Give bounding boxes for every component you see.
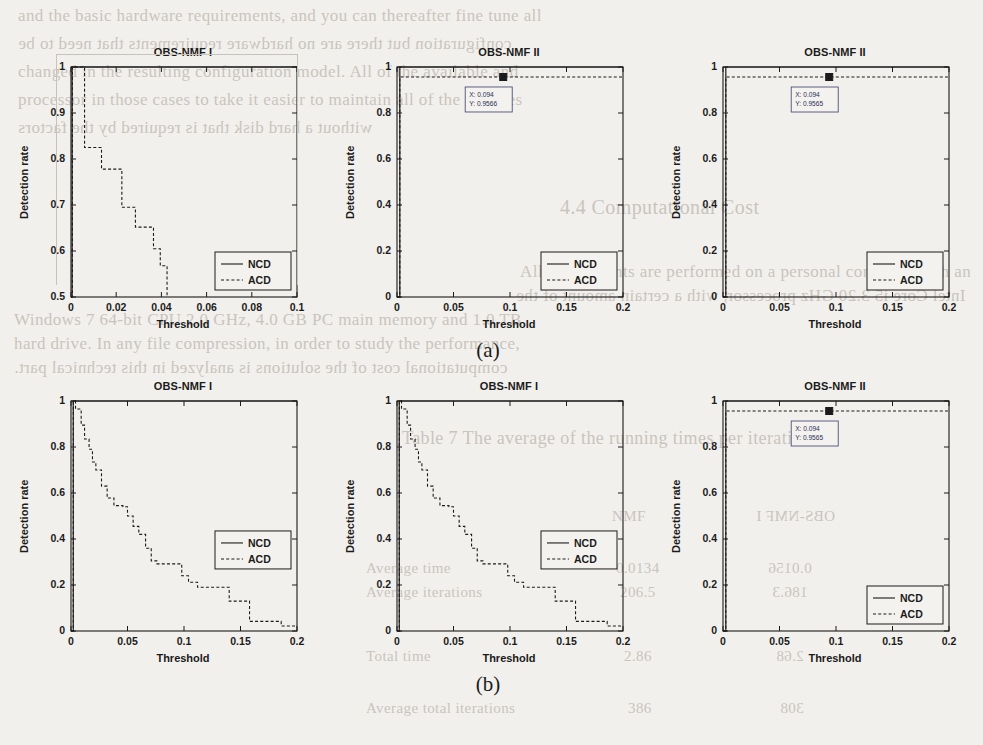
- y-tick-label: 0.2: [357, 578, 391, 590]
- y-axis-label: Detection rate: [344, 146, 356, 219]
- y-tick-label: 0.2: [357, 244, 391, 256]
- y-tick-label: 1: [31, 394, 65, 406]
- x-tick-label: 0.08: [229, 301, 275, 313]
- y-tick-label: 1: [357, 60, 391, 72]
- x-tick-label: 0.1: [274, 301, 320, 313]
- x-tick-label: 0.2: [600, 635, 646, 647]
- legend-label-acd: ACD: [574, 274, 597, 286]
- chart-panel: OBS-NMF IIX: 0.094Y: 0.9565NCDACD00.050.…: [676, 46, 960, 342]
- x-tick-label: 0.15: [544, 301, 590, 313]
- y-tick-label: 0.2: [683, 244, 717, 256]
- scan-ghost-frame: [56, 54, 298, 285]
- datatip-marker: [826, 408, 833, 415]
- plot-frame: [71, 401, 297, 631]
- y-tick-label: 0.4: [683, 198, 717, 210]
- chart-panel: OBS-NMF IIX: 0.094Y: 0.9565NCDACD00.050.…: [676, 380, 960, 676]
- y-tick-label: 0.2: [31, 578, 65, 590]
- y-tick-label: 0.6: [31, 486, 65, 498]
- plot-area: X: 0.094Y: 0.9566NCDACD: [396, 66, 624, 298]
- chart-title: OBS-NMF I: [70, 380, 296, 392]
- y-tick-label: 0: [357, 624, 391, 636]
- datatip-y-value: Y: 0.9566: [469, 100, 497, 107]
- x-tick-label: 0.15: [870, 635, 916, 647]
- x-tick-label: 0.05: [105, 635, 151, 647]
- plot-area: NCDACD: [70, 400, 298, 632]
- legend-label-ncd: NCD: [574, 258, 597, 270]
- x-axis-label: Threshold: [396, 652, 622, 664]
- y-tick-label: 0: [31, 624, 65, 636]
- datatip-y-value: Y: 0.9565: [795, 100, 823, 107]
- y-tick-label: 0.6: [357, 486, 391, 498]
- x-tick-label: 0.05: [757, 635, 803, 647]
- y-tick-label: 0.4: [357, 198, 391, 210]
- chart-panel: OBS-NMF INCDACD00.050.10.150.200.20.40.6…: [350, 380, 634, 676]
- legend-label-ncd: NCD: [900, 258, 923, 270]
- datatip-x-value: X: 0.094: [795, 425, 820, 432]
- chart-title: OBS-NMF II: [396, 46, 622, 58]
- y-tick-label: 0.4: [683, 532, 717, 544]
- y-tick-label: 0: [683, 290, 717, 302]
- subfigure-caption: (a): [458, 338, 518, 363]
- x-axis-label: Threshold: [70, 318, 296, 330]
- x-tick-label: 0.05: [757, 301, 803, 313]
- x-tick-label: 0: [48, 301, 94, 313]
- y-axis-label: Detection rate: [18, 146, 30, 219]
- y-tick-label: 0.4: [357, 532, 391, 544]
- chart-title: OBS-NMF II: [722, 380, 948, 392]
- y-tick-label: 1: [683, 394, 717, 406]
- y-axis-label: Detection rate: [344, 480, 356, 553]
- y-tick-label: 0.2: [683, 578, 717, 590]
- x-tick-label: 0.04: [138, 301, 184, 313]
- chart-title: OBS-NMF I: [396, 380, 622, 392]
- datatip-x-value: X: 0.094: [469, 91, 494, 98]
- plot-area: X: 0.094Y: 0.9565NCDACD: [722, 400, 950, 632]
- y-tick-label: 0.8: [31, 440, 65, 452]
- x-axis-label: Threshold: [722, 318, 948, 330]
- x-tick-label: 0.15: [870, 301, 916, 313]
- y-tick-label: 0.8: [683, 440, 717, 452]
- chart-panel: OBS-NMF INCDACD00.020.040.060.080.10.50.…: [24, 46, 308, 342]
- legend-label-ncd: NCD: [248, 537, 271, 549]
- x-tick-label: 0.2: [926, 301, 972, 313]
- legend-label-acd: ACD: [574, 553, 597, 565]
- x-tick-label: 0.02: [93, 301, 139, 313]
- x-axis-label: Threshold: [722, 652, 948, 664]
- x-tick-label: 0: [48, 635, 94, 647]
- datatip-marker: [826, 74, 833, 81]
- x-tick-label: 0.1: [813, 301, 859, 313]
- series-line-acd: [397, 401, 623, 631]
- x-tick-label: 0.15: [218, 635, 264, 647]
- y-tick-label: 1: [683, 60, 717, 72]
- y-tick-label: 0.5: [31, 290, 65, 302]
- legend-label-ncd: NCD: [900, 592, 923, 604]
- y-tick-label: 0.6: [683, 152, 717, 164]
- datatip-y-value: Y: 0.9565: [795, 434, 823, 441]
- y-tick-label: 0.8: [357, 106, 391, 118]
- x-tick-label: 0.15: [544, 635, 590, 647]
- chart-panel: OBS-NMF IIX: 0.094Y: 0.9566NCDACD00.050.…: [350, 46, 634, 342]
- y-tick-label: 0.4: [31, 532, 65, 544]
- y-tick-label: 0.8: [357, 440, 391, 452]
- x-axis-label: Threshold: [396, 318, 622, 330]
- x-axis-label: Threshold: [70, 652, 296, 664]
- plot-area: X: 0.094Y: 0.9565NCDACD: [722, 66, 950, 298]
- y-tick-label: 0.6: [357, 152, 391, 164]
- y-tick-label: 0.6: [683, 486, 717, 498]
- x-tick-label: 0.1: [813, 635, 859, 647]
- legend-label-acd: ACD: [900, 608, 923, 620]
- legend-label-ncd: NCD: [574, 537, 597, 549]
- x-tick-label: 0.05: [431, 635, 477, 647]
- datatip-x-value: X: 0.094: [795, 91, 820, 98]
- x-tick-label: 0.2: [274, 635, 320, 647]
- x-tick-label: 0.1: [161, 635, 207, 647]
- y-tick-label: 0: [683, 624, 717, 636]
- subfigure-caption: (b): [458, 672, 518, 697]
- chart-title: OBS-NMF II: [722, 46, 948, 58]
- x-tick-label: 0: [374, 635, 420, 647]
- y-axis-label: Detection rate: [18, 480, 30, 553]
- x-tick-label: 0.2: [600, 301, 646, 313]
- legend-label-acd: ACD: [900, 274, 923, 286]
- x-tick-label: 0.1: [487, 301, 533, 313]
- plot-frame: [397, 401, 623, 631]
- y-axis-label: Detection rate: [670, 480, 682, 553]
